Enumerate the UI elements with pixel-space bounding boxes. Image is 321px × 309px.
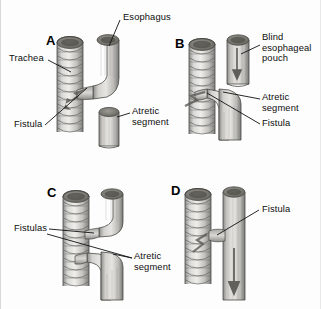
label-atretic-segment-c: Atretic segment	[134, 251, 171, 272]
figure-panel-container: A B C D Esophagus Trachea Fistula Atreti…	[0, 0, 321, 309]
panel-b-illustration	[185, 35, 260, 140]
label-blind-esophageal-pouch: Blind esophageal pouch	[262, 32, 311, 64]
label-esophagus: Esophagus	[123, 12, 171, 23]
label-atretic-segment-a: Atretic segment	[132, 106, 169, 127]
panel-letter-d: D	[171, 183, 181, 198]
panel-letter-b: B	[175, 36, 185, 51]
label-fistula-a: Fistula	[14, 119, 42, 130]
panel-letter-c: C	[47, 185, 57, 200]
panel-a-illustration	[45, 20, 130, 148]
label-fistula-d: Fistula	[262, 204, 290, 215]
panel-letter-a: A	[46, 33, 56, 48]
label-atretic-segment-b: Atretic segment	[262, 92, 299, 113]
panel-d-illustration	[185, 187, 259, 300]
panel-c-illustration	[47, 189, 132, 300]
label-fistulas-c: Fistulas	[14, 223, 47, 234]
label-fistula-b: Fistula	[262, 118, 290, 129]
label-trachea: Trachea	[9, 53, 44, 64]
